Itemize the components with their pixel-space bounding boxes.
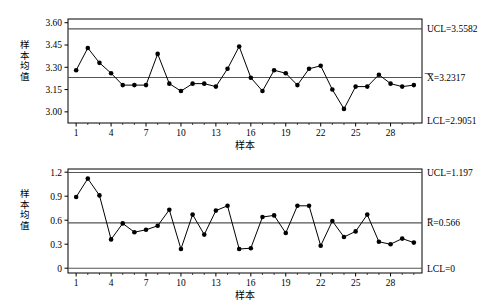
y-tick-label: 3.15 (45, 85, 62, 95)
ucl-annotation: UCL=1.197 (427, 168, 473, 178)
x-tick-label: 22 (316, 278, 326, 288)
y-axis-label-r: 样 本 均 值 (18, 189, 32, 231)
x-tick-label: 22 (316, 128, 326, 138)
data-point (237, 44, 242, 49)
y-axis-label-char: 均 (18, 210, 32, 221)
data-point (237, 247, 242, 252)
data-point (155, 224, 160, 229)
data-point (74, 68, 79, 73)
data-point (214, 84, 219, 89)
figure-root: 样 本 均 值 3.603.453.303.153.00147101316192… (0, 0, 504, 302)
data-point (330, 87, 335, 92)
data-point (260, 89, 265, 94)
y-tick-label: 0.6 (50, 216, 62, 226)
data-line (76, 179, 414, 249)
data-point (400, 236, 405, 241)
data-point (109, 71, 114, 76)
x-bar-control-chart: 样 本 均 值 3.603.453.303.153.00147101316192… (0, 0, 504, 151)
data-point (283, 231, 288, 236)
x-tick-label: 1 (74, 278, 79, 288)
lcl-annotation: LCL=2.9051 (427, 116, 477, 126)
x-tick-label: 4 (109, 278, 114, 288)
data-point (86, 176, 91, 181)
data-point (202, 81, 207, 86)
data-point (179, 89, 184, 94)
y-tick-label: 3.00 (45, 107, 62, 117)
data-point (388, 242, 393, 247)
y-axis-label-char: 样 (18, 40, 32, 51)
x-tick-label: 25 (351, 278, 361, 288)
y-axis-label-char: 本 (18, 51, 32, 62)
x-tick-label: 28 (386, 128, 396, 138)
x-tick-label: 16 (246, 278, 256, 288)
range-control-chart: 样 本 均 值 1.20.90.60.3014710131619222528样本… (0, 151, 504, 302)
y-axis-label-xbar: 样 本 均 值 (18, 40, 32, 82)
data-point (272, 213, 277, 218)
y-tick-label: 3.45 (45, 40, 62, 50)
x-tick-label: 4 (109, 128, 114, 138)
data-point (132, 83, 137, 88)
data-point (249, 246, 254, 251)
lcl-annotation: LCL=0 (427, 264, 455, 274)
data-point (330, 219, 335, 224)
data-point (132, 230, 137, 235)
data-point (190, 81, 195, 86)
data-point (179, 247, 184, 252)
x-tick-label: 13 (211, 128, 221, 138)
x-axis-label: 样本 (235, 139, 255, 151)
y-tick-label: 1.2 (50, 168, 62, 178)
data-point (353, 84, 358, 89)
x-tick-label: 10 (176, 278, 186, 288)
data-point (86, 46, 91, 51)
range-plot-area: 1.20.90.60.3014710131619222528样本UCL=1.19… (0, 151, 504, 302)
y-tick-label: 0.3 (50, 240, 62, 250)
data-point (400, 84, 405, 89)
data-point (249, 75, 254, 80)
data-point (377, 72, 382, 77)
data-point (283, 71, 288, 76)
data-point (97, 61, 102, 66)
x-tick-label: 1 (74, 128, 79, 138)
data-point (167, 208, 172, 213)
data-point (120, 221, 125, 226)
plot-frame (68, 19, 422, 123)
data-point (214, 208, 219, 213)
center-annotation-text: R̅=0.566 (427, 218, 460, 228)
y-axis-label-char: 值 (18, 221, 32, 232)
data-point (97, 193, 102, 198)
data-point (412, 240, 417, 245)
ucl-annotation: UCL=3.5582 (427, 24, 478, 34)
data-point (120, 83, 125, 88)
data-point (365, 84, 370, 89)
data-point (307, 66, 312, 71)
x-tick-label: 13 (211, 278, 221, 288)
center-annotation: ̅X̅=3.2317 (424, 73, 466, 83)
data-point (318, 244, 323, 249)
y-tick-label: 0 (57, 264, 62, 274)
data-point (167, 81, 172, 86)
x-tick-label: 25 (351, 128, 361, 138)
x-tick-label: 19 (281, 278, 291, 288)
data-point (260, 215, 265, 220)
x-tick-label: 7 (144, 278, 149, 288)
data-point (307, 204, 312, 209)
plot-frame (68, 169, 422, 273)
y-axis-label-char: 本 (18, 200, 32, 211)
data-point (272, 68, 277, 73)
data-point (144, 83, 149, 88)
x-tick-label: 16 (246, 128, 256, 138)
data-point (388, 81, 393, 86)
x-tick-label: 19 (281, 128, 291, 138)
y-tick-label: 0.9 (50, 192, 62, 202)
data-point (74, 195, 79, 200)
data-point (109, 237, 114, 242)
y-axis-label-char: 均 (18, 61, 32, 72)
data-point (295, 204, 300, 209)
data-point (202, 232, 207, 237)
data-point (295, 83, 300, 88)
y-axis-label-char: 值 (18, 72, 32, 83)
y-tick-label: 3.60 (45, 18, 62, 28)
y-tick-label: 3.30 (45, 63, 62, 73)
x-tick-label: 28 (386, 278, 396, 288)
data-point (144, 228, 149, 233)
